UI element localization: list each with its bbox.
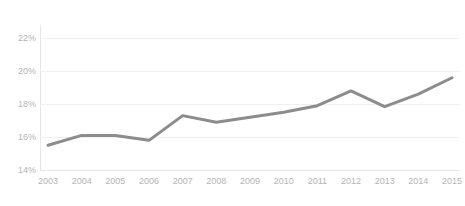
y-axis-tick-label: 20% <box>2 67 36 76</box>
y-axis-tick-labels: 14%16%18%20%22% <box>0 0 36 206</box>
x-axis-tick-label: 2009 <box>240 176 260 187</box>
y-axis-tick-label: 16% <box>2 133 36 142</box>
x-axis-tick-label: 2014 <box>408 176 428 187</box>
y-axis-tick-label: 22% <box>2 34 36 43</box>
x-axis-tick-label: 2015 <box>442 176 462 187</box>
x-axis-tick-label: 2012 <box>341 176 361 187</box>
x-axis-tick-label: 2007 <box>173 176 193 187</box>
x-axis-tick-label: 2008 <box>206 176 226 187</box>
series-polyline <box>48 78 452 146</box>
series-line <box>40 25 460 170</box>
x-axis-line <box>40 170 460 171</box>
y-axis-tick-label: 18% <box>2 100 36 109</box>
x-axis-tick-label: 2003 <box>38 176 58 187</box>
y-axis-tick-label: 14% <box>2 166 36 175</box>
x-axis-tick-labels: 2003200420052006200720082009201020112012… <box>40 176 460 188</box>
x-axis-tick-label: 2013 <box>375 176 395 187</box>
x-axis-tick-label: 2005 <box>105 176 125 187</box>
x-axis-tick-label: 2004 <box>72 176 92 187</box>
line-chart: 14%16%18%20%22% 200320042005200620072008… <box>0 0 465 206</box>
plot-area <box>40 25 460 170</box>
x-axis-tick-label: 2010 <box>274 176 294 187</box>
chart-title <box>0 0 465 4</box>
x-axis-tick-label: 2006 <box>139 176 159 187</box>
x-axis-tick-label: 2011 <box>308 176 327 187</box>
